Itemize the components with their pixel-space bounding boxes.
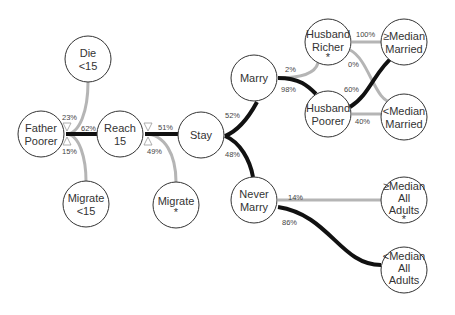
edge-marry-hrich bbox=[278, 63, 318, 78]
mobility-tree-diagram: Die <15 Father Poorer Reach 15 Migrate <… bbox=[0, 0, 455, 315]
node-hpoor bbox=[305, 91, 351, 137]
pct-never-gema: 14% bbox=[288, 193, 303, 202]
node-migrate15 bbox=[63, 181, 109, 227]
pct-stay-marry: 52% bbox=[225, 111, 240, 120]
node-label: Marry bbox=[240, 201, 269, 213]
node-label: <Median bbox=[383, 250, 426, 262]
node-label: Migrate bbox=[68, 192, 105, 204]
node-label: Poorer bbox=[311, 115, 344, 127]
node-label: Marry bbox=[240, 72, 269, 84]
node-label: ≥Median bbox=[383, 180, 425, 192]
node-label: Poorer bbox=[24, 135, 57, 147]
node-never bbox=[231, 177, 277, 223]
pct-never-ltma: 86% bbox=[282, 218, 297, 227]
pct-hrich-gemm: 100% bbox=[356, 30, 376, 39]
node-label: Husband bbox=[306, 102, 350, 114]
pct-hpoor-gemm: 60% bbox=[344, 85, 359, 94]
node-label: Married bbox=[385, 118, 422, 130]
pct-father-migrate15: 15% bbox=[62, 147, 77, 156]
node-label: * bbox=[326, 51, 331, 63]
node-label: <15 bbox=[77, 205, 96, 217]
pct-hpoor-ltmm: 40% bbox=[355, 117, 370, 126]
edge-never-ltma bbox=[278, 207, 381, 265]
node-die bbox=[65, 36, 111, 82]
node-label: Husband bbox=[306, 28, 350, 40]
pct-father-die: 23% bbox=[62, 113, 77, 122]
pct-reach-stay: 51% bbox=[158, 123, 173, 132]
pct-stay-never: 48% bbox=[225, 150, 240, 159]
node-label: All bbox=[398, 192, 410, 204]
node-label: Reach bbox=[104, 122, 136, 134]
node-label: Married bbox=[385, 43, 422, 55]
node-label: ≥Median bbox=[383, 30, 425, 42]
pct-reach-migrate: 49% bbox=[147, 147, 162, 156]
node-label: <15 bbox=[79, 60, 98, 72]
pct-hrich-ltmm: 0% bbox=[348, 60, 359, 69]
node-label: Adults bbox=[389, 274, 420, 286]
node-label: 15 bbox=[114, 135, 126, 147]
node-gemm bbox=[381, 19, 427, 65]
node-label: Stay bbox=[190, 129, 213, 141]
node-label: All bbox=[398, 262, 410, 274]
node-label: Die bbox=[80, 47, 97, 59]
pct-marry-hrich: 2% bbox=[285, 65, 296, 74]
node-father bbox=[18, 111, 64, 157]
node-label: * bbox=[402, 213, 407, 225]
pct-father-reach: 62% bbox=[81, 124, 96, 133]
node-label: <Median bbox=[383, 105, 426, 117]
node-reach bbox=[97, 111, 143, 157]
node-label: Never bbox=[239, 188, 269, 200]
pct-marry-hpoor: 98% bbox=[281, 85, 296, 94]
node-label: Father bbox=[25, 122, 57, 134]
node-ltmm bbox=[381, 94, 427, 140]
node-label: * bbox=[174, 206, 179, 218]
